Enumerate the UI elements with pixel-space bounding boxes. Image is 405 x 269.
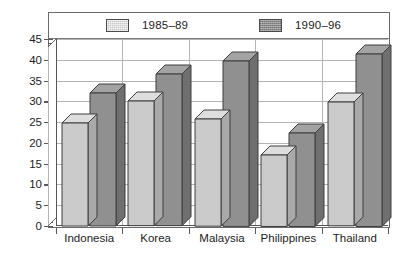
- y-tick-label-20: 20: [29, 137, 42, 149]
- y-axis-labels: 051015202530354045: [16, 39, 42, 226]
- x-tick-label-malaysia: Malaysia: [199, 232, 244, 244]
- legend-swatch-dark-gray: [259, 19, 282, 32]
- bar-front-face: [62, 123, 88, 226]
- gridline-y-45: [56, 39, 388, 40]
- bar-front-face: [128, 101, 154, 226]
- bar: [261, 155, 287, 226]
- bar-side-face: [354, 93, 363, 226]
- y-tick-label-15: 15: [29, 158, 42, 170]
- y-axis-line: [56, 39, 57, 226]
- x-tick-label-indonesia: Indonesia: [64, 232, 114, 244]
- x-tick-label-korea: Korea: [140, 232, 171, 244]
- y-tick-label-35: 35: [29, 75, 42, 87]
- y-tick-label-5: 5: [36, 199, 42, 211]
- legend-item-1990-96: 1990‒96: [259, 16, 341, 34]
- y-tick-label-30: 30: [29, 95, 42, 107]
- legend-item-1985-89: 1985‒89: [106, 16, 188, 34]
- plot-area: [56, 39, 388, 226]
- bar-front-face: [261, 155, 287, 226]
- y-tick-label-0: 0: [36, 220, 42, 232]
- bar-side-face: [249, 52, 258, 226]
- chart-legend: 1985‒89 1990‒96: [49, 13, 389, 39]
- bar-side-face: [116, 84, 125, 226]
- bar-side-face: [154, 92, 163, 226]
- y-tick-label-45: 45: [29, 33, 42, 45]
- y-tick-major-0: [44, 226, 53, 227]
- legend-swatch-light-gray: [106, 19, 129, 32]
- x-tick-label-thailand: Thailand: [333, 232, 377, 244]
- legend-label-1990-96: 1990‒96: [295, 19, 341, 31]
- axis-3d-left-wall: [48, 39, 56, 226]
- bar-side-face: [221, 110, 230, 226]
- y-tick-label-25: 25: [29, 116, 42, 128]
- bar: [128, 101, 154, 226]
- x-axis-labels: IndonesiaKoreaMalaysiaPhilippinesThailan…: [48, 232, 393, 252]
- y-tick-label-10: 10: [29, 178, 42, 190]
- x-tick-label-philippines: Philippines: [261, 232, 317, 244]
- bar-side-face: [88, 114, 97, 226]
- bar: [62, 123, 88, 226]
- bar: [195, 119, 221, 226]
- bar-front-face: [328, 102, 354, 226]
- bar-side-face: [182, 65, 191, 226]
- bar-side-face: [287, 146, 296, 226]
- bar-chart: 1985‒89 1990‒96 051015202530354045 Indon…: [0, 0, 405, 269]
- legend-label-1985-89: 1985‒89: [142, 19, 188, 31]
- bar: [328, 102, 354, 226]
- y-tick-label-40: 40: [29, 54, 42, 66]
- bar-side-face: [382, 45, 391, 226]
- bar-front-face: [195, 119, 221, 226]
- bar-side-face: [315, 124, 324, 227]
